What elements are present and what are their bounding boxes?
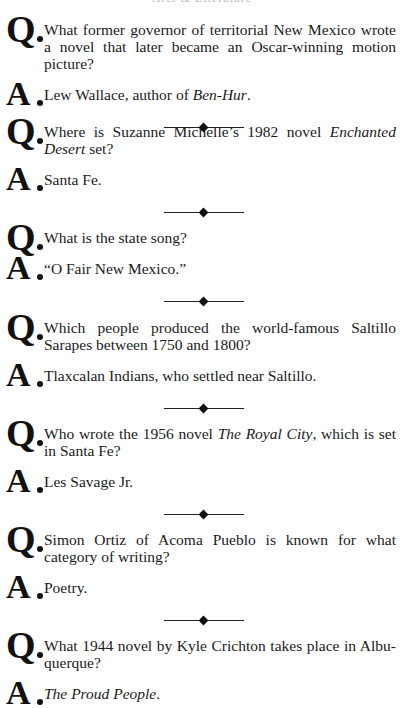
question-text: Simon Ortiz of Acoma Pueblo is known for… (44, 524, 396, 565)
a-label: A (6, 80, 36, 108)
qa-item: Q Where is Suzanne Michelle’s 1982 novel… (0, 116, 404, 219)
bullet-dot-icon (37, 546, 43, 552)
answer-row: A Lew Wallace, author of Ben-Hur. (0, 80, 404, 108)
a-label: A (6, 467, 36, 495)
bullet-dot-icon (37, 36, 43, 42)
q-label: Q (6, 630, 36, 660)
q-label: Q (6, 524, 36, 554)
q-label: Q (6, 222, 36, 252)
bullet-dot-icon (37, 334, 43, 340)
question-text: Who wrote the 1956 novel The Royal City,… (44, 418, 396, 459)
a-label: A (6, 361, 36, 389)
question-text: What 1944 novel by Kyle Crichton takes p… (44, 630, 396, 671)
diamond-rule-icon (164, 615, 244, 627)
question-row: Q What 1944 novel by Kyle Crichton takes… (0, 630, 404, 671)
bullet-dot-icon (37, 381, 43, 387)
answer-row: A The Proud People. (0, 679, 404, 707)
answer-text: Lew Wallace, author of Ben-Hur. (44, 80, 396, 103)
qa-item: Q What is the state song? A “O Fair New … (0, 222, 404, 308)
question-text: Where is Suzanne Michelle’s 1982 novel E… (44, 116, 396, 157)
qa-item: Q Simon Ortiz of Acoma Pueblo is known f… (0, 524, 404, 627)
bullet-dot-icon (37, 699, 43, 705)
a-label: A (6, 165, 36, 193)
answer-row: A Tlaxcalan Indians, who settled near Sa… (0, 361, 404, 389)
answer-row: A Les Savage Jr. (0, 467, 404, 495)
answer-text: Santa Fe. (44, 165, 396, 188)
bullet-dot-icon (37, 244, 43, 250)
question-row: Q Simon Ortiz of Acoma Pueblo is known f… (0, 524, 404, 565)
answer-row: A Poetry. (0, 573, 404, 601)
answer-text: Poetry. (44, 573, 396, 596)
question-text: Which people produced the world-famous S… (44, 312, 396, 353)
running-header: Arts & Literature (0, 0, 404, 6)
q-label: Q (6, 116, 36, 146)
bullet-dot-icon (37, 652, 43, 658)
diamond-rule-icon (164, 207, 244, 219)
question-row: Q What is the state song? (0, 222, 404, 252)
bullet-dot-icon (37, 487, 43, 493)
a-label: A (6, 254, 36, 282)
question-row: Q Which people produced the world-famous… (0, 312, 404, 353)
qa-item: Q Which people produced the world-famous… (0, 312, 404, 415)
answer-text: Tlaxcalan Indians, who settled near Salt… (44, 361, 396, 384)
diamond-rule-icon (164, 296, 244, 308)
question-text: What former governor of territorial New … (44, 14, 396, 72)
answer-text: The Proud People. (44, 679, 396, 702)
q-label: Q (6, 312, 36, 342)
question-row: Q Where is Suzanne Michelle’s 1982 novel… (0, 116, 404, 157)
answer-text: “O Fair New Mexico.” (44, 254, 396, 277)
question-row: Q Who wrote the 1956 novel The Royal Cit… (0, 418, 404, 459)
question-text: What is the state song? (44, 222, 396, 246)
answer-text: Les Savage Jr. (44, 467, 396, 490)
bullet-dot-icon (37, 274, 43, 280)
bullet-dot-icon (37, 593, 43, 599)
bullet-dot-icon (37, 185, 43, 191)
diamond-rule-icon (164, 509, 244, 521)
qa-item: Q What 1944 novel by Kyle Crichton takes… (0, 630, 404, 707)
qa-item: Q Who wrote the 1956 novel The Royal Cit… (0, 418, 404, 521)
q-label: Q (6, 418, 36, 448)
diamond-rule-icon (164, 403, 244, 415)
q-label: Q (6, 14, 36, 44)
bullet-dot-icon (37, 100, 43, 106)
bullet-dot-icon (37, 440, 43, 446)
a-label: A (6, 679, 36, 707)
answer-row: A “O Fair New Mexico.” (0, 254, 404, 282)
question-row: Q What former governor of territorial Ne… (0, 14, 404, 72)
answer-row: A Santa Fe. (0, 165, 404, 193)
bullet-dot-icon (37, 138, 43, 144)
a-label: A (6, 573, 36, 601)
